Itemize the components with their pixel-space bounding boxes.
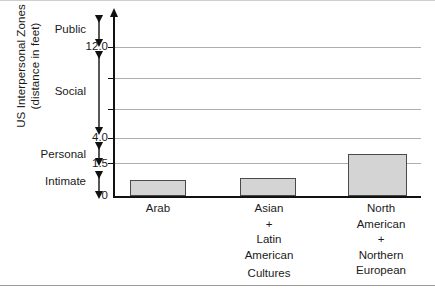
x-axis-category-labels: Arab Asian + Latin American North Americ… bbox=[113, 201, 421, 291]
gridline-12 bbox=[113, 47, 421, 48]
y-tick-4: 4.0 bbox=[92, 131, 108, 143]
category-asian-line1: Asian bbox=[225, 201, 313, 217]
y-axis-tick-labels: 12.0 4.0 1.5 0 bbox=[66, 0, 108, 300]
x-axis-line bbox=[113, 196, 421, 198]
chart-figure: US Interpersonal Zones (distance in feet… bbox=[0, 0, 435, 300]
category-label-asian-latin-american: Asian + Latin American bbox=[225, 201, 313, 263]
bottom-divider bbox=[0, 285, 435, 286]
y-tick-0: 0 bbox=[102, 189, 108, 201]
category-label-arab: Arab bbox=[119, 201, 197, 217]
y-tick-1-5: 1.5 bbox=[92, 157, 108, 169]
category-north-line5: European bbox=[335, 263, 427, 279]
bar-asian-latin-american[interactable] bbox=[240, 178, 296, 196]
plot-area bbox=[113, 16, 421, 198]
category-asian-line2: + bbox=[225, 217, 313, 233]
category-north-line4: Northern bbox=[335, 248, 427, 264]
category-arab-line1: Arab bbox=[119, 201, 197, 217]
category-asian-line4: American bbox=[225, 248, 313, 264]
gridline-4 bbox=[113, 78, 421, 79]
bar-arab[interactable] bbox=[130, 180, 186, 196]
y-axis-line bbox=[113, 16, 115, 198]
category-north-line2: American bbox=[335, 217, 427, 233]
category-north-line3: + bbox=[335, 232, 427, 248]
category-north-line1: North bbox=[335, 201, 427, 217]
gridline-3 bbox=[113, 109, 421, 110]
category-asian-line3: Latin bbox=[225, 232, 313, 248]
bar-north-american-northern-european[interactable] bbox=[348, 154, 407, 196]
y-tick-12: 12.0 bbox=[86, 40, 108, 52]
category-label-north-american-northern-european: North American + Northern European bbox=[335, 201, 427, 279]
x-axis-title: Cultures bbox=[225, 267, 313, 279]
y-axis-arrow-icon bbox=[110, 8, 118, 17]
gridline-2 bbox=[113, 138, 421, 139]
